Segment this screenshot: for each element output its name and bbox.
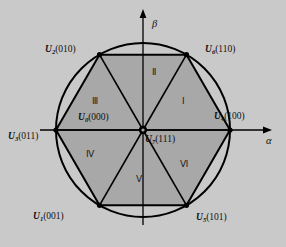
vector-index-u7: 7 [152, 138, 155, 145]
vector-index-u6: 6 [212, 48, 215, 55]
vector-label-u5: U5(101) [196, 213, 227, 223]
vector-label-u6: U6(110) [205, 45, 235, 55]
vector-index-u1: 1 [40, 215, 43, 222]
vector-label-u1: U1(001) [33, 212, 64, 222]
vector-bits-u6: (110) [215, 44, 235, 54]
vector-symbol-u1: U [33, 211, 40, 221]
vector-symbol-u5: U [196, 212, 203, 222]
vector-bits-u4: (100) [224, 111, 245, 121]
vector-symbol-u3: U [8, 131, 15, 141]
vector-index-u5: 5 [203, 216, 206, 223]
vector-bits-u2: (010) [55, 44, 76, 54]
sector-label-iii: Ⅲ [92, 97, 98, 106]
hexagon-diagram [0, 0, 286, 247]
origin-marker [139, 126, 147, 134]
vector-bits-u5: (101) [206, 212, 227, 222]
sector-label-ii: Ⅱ [152, 68, 156, 77]
vector-symbol-u6: U [205, 44, 212, 54]
vector-bits-u3: (011) [18, 131, 38, 141]
sector-label-i: Ⅰ [182, 97, 185, 106]
vector-label-u7: U7(111) [145, 135, 175, 145]
vector-bits-u7: (111) [155, 134, 175, 144]
vector-index-u2: 2 [52, 48, 55, 55]
vector-index-u3: 3 [15, 135, 18, 142]
sector-label-vi: Ⅵ [180, 160, 188, 169]
figure-canvas: U2(010) U6(110) U4(100) U3(011) U1(001) … [0, 0, 286, 247]
vector-bits-u0: (000) [88, 112, 109, 122]
vector-bits-u1: (001) [43, 211, 64, 221]
vector-index-u4: 4 [221, 115, 224, 122]
vector-symbol-u2: U [45, 44, 52, 54]
sector-label-iv: Ⅳ [86, 150, 94, 159]
vector-label-u0: U0(000) [78, 113, 109, 123]
axis-label-beta: β [152, 19, 157, 30]
vector-symbol-u0: U [78, 112, 85, 122]
vector-symbol-u7: U [145, 134, 152, 144]
vector-index-u0: 0 [85, 116, 88, 123]
vector-symbol-u4: U [214, 111, 221, 121]
vector-label-u3: U3(011) [8, 132, 38, 142]
vector-label-u2: U2(010) [45, 45, 76, 55]
axis-label-alpha: α [266, 136, 272, 147]
vector-label-u4: U4(100) [214, 112, 245, 122]
sector-label-v: Ⅴ [136, 175, 142, 184]
